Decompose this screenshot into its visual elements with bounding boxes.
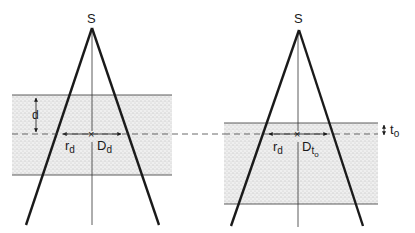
diagram-canvas: d × rd Dd S × rd Dto to S bbox=[0, 0, 415, 233]
right-thickness-label: to bbox=[390, 122, 400, 139]
left-depth-label: d bbox=[32, 108, 39, 122]
left-source-label: S bbox=[87, 11, 96, 26]
right-source-label: S bbox=[294, 11, 303, 26]
right-panel: × rd Dto to S bbox=[224, 11, 400, 227]
right-slab bbox=[224, 123, 378, 204]
left-panel: d × rd Dd S bbox=[12, 11, 172, 225]
right-center-marker: × bbox=[294, 128, 300, 140]
